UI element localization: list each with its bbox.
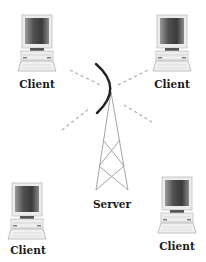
desktop-computer-icon: [158, 177, 196, 233]
client-label: Client: [10, 244, 46, 256]
signal-line-top-left: [70, 70, 100, 85]
desktop-computer-icon: [18, 15, 56, 71]
signal-line-bottom-right: [124, 105, 152, 122]
antenna-arc-icon: [96, 64, 110, 113]
client-top-right: Client: [153, 15, 191, 90]
signal-line-bottom-left: [62, 108, 90, 130]
signal-line-top-right: [118, 70, 148, 85]
client-bottom-right: Client: [158, 177, 196, 252]
server-label: Server: [93, 198, 132, 210]
client-top-left: Client: [18, 15, 56, 90]
client-label: Client: [19, 78, 55, 90]
desktop-computer-icon: [153, 15, 191, 71]
network-diagram: Server Client Client Client Client: [0, 0, 206, 262]
desktop-computer-icon: [8, 183, 46, 239]
client-label: Client: [159, 240, 195, 252]
client-bottom-left: Client: [8, 183, 46, 256]
client-label: Client: [154, 78, 190, 90]
radio-tower-icon: [96, 92, 128, 190]
